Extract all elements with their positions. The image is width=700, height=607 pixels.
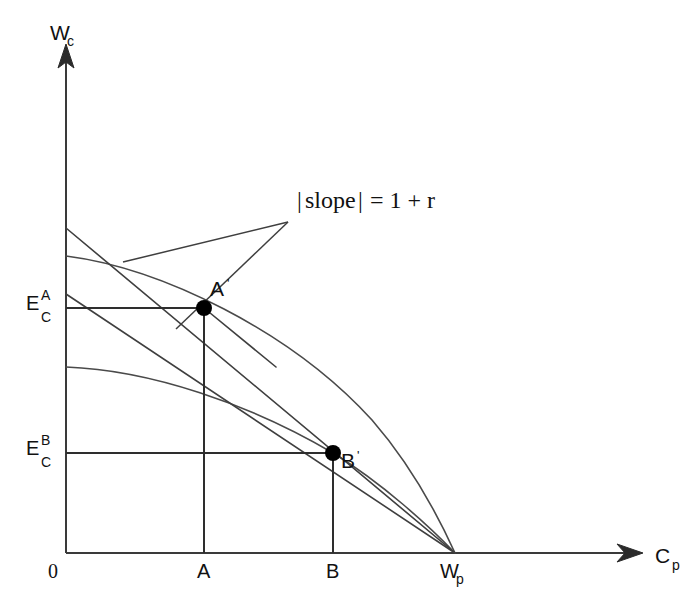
y-tick-ec-a-sub: C [41, 309, 51, 325]
point-b-prime-mark: ' [357, 448, 359, 463]
budget-line-group [66, 228, 455, 553]
slope-equals-expression: = 1 + r [370, 187, 435, 213]
x-axis-title-main: C [655, 544, 670, 567]
slope-annotation: | slope | = 1 + r [297, 187, 435, 213]
x-tick-a-label: A [197, 560, 211, 582]
y-tick-ec-a-main: E [26, 292, 39, 314]
figure-root: W c C p 0 A B W p E A C E B C [0, 0, 700, 607]
budget-line-a [66, 228, 455, 553]
economics-diagram: W c C p 0 A B W p E A C E B C [0, 0, 700, 607]
point-a-prime-mark: ' [227, 276, 229, 291]
budget-line-b [66, 294, 455, 553]
y-axis-title-sub: c [67, 33, 74, 49]
leader-line-upper [123, 222, 288, 262]
y-axis-title: W c [50, 21, 74, 49]
y-tick-ec-b-label: E B C [26, 432, 51, 470]
y-tick-ec-b-sup: B [41, 432, 50, 448]
point-b-prime-letter: B [341, 449, 355, 472]
slope-bar-right: | [358, 187, 363, 213]
frontier-curve-group [66, 256, 455, 553]
slope-body: slope [305, 187, 356, 213]
point-a-prime-label: A ' [210, 276, 229, 300]
y-tick-ec-a-sup: A [41, 287, 51, 303]
x-axis-title: C p [655, 544, 680, 573]
x-tick-wp-sub: p [456, 571, 464, 587]
y-tick-ec-b-main: E [26, 437, 39, 459]
x-axis-title-sub: p [672, 557, 680, 573]
y-tick-ec-b-sub: C [41, 454, 51, 470]
point-a-prime-dot[interactable] [196, 300, 212, 316]
origin-label: 0 [48, 560, 58, 582]
lower-frontier-curve [66, 367, 455, 553]
slope-bar-left: | [297, 187, 302, 213]
x-tick-b-label: B [326, 560, 339, 582]
y-tick-ec-a-label: E A C [26, 287, 51, 325]
upper-frontier-curve [66, 256, 455, 553]
x-tick-wp-label: W p [440, 560, 464, 587]
point-b-prime-dot[interactable] [325, 445, 341, 461]
marked-points-group [196, 300, 341, 461]
point-a-prime-letter: A [210, 277, 224, 300]
